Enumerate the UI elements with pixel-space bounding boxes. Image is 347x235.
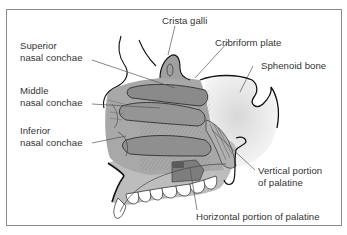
label-middle-nasal-conchae-line2: nasal conchae <box>20 97 83 109</box>
label-vertical-portion-palatine-line2: of palatine <box>258 177 303 189</box>
crista-galli-shape <box>160 55 190 80</box>
label-inferior-nasal-conchae-line1: Inferior <box>20 125 50 137</box>
label-sphenoid-bone: Sphenoid bone <box>261 60 326 72</box>
label-cribriform-plate: Cribriform plate <box>215 37 281 49</box>
label-inferior-nasal-conchae-line2: nasal conchae <box>20 137 83 149</box>
label-middle-nasal-conchae-line1: Middle <box>20 85 49 97</box>
label-superior-nasal-conchae-line2: nasal conchae <box>20 52 83 64</box>
label-superior-nasal-conchae-line1: Superior <box>20 40 57 52</box>
label-crista-galli: Crista galli <box>162 15 207 27</box>
label-vertical-portion-palatine-line1: Vertical portion <box>258 165 322 177</box>
nasal-cavity-illustration <box>0 0 347 235</box>
label-horizontal-portion-palatine: Horizontal portion of palatine <box>196 211 320 223</box>
